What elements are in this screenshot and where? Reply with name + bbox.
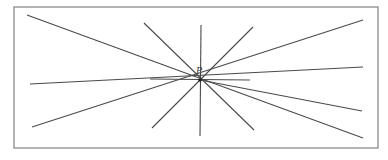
line-4 (144, 23, 254, 130)
diagram-frame (14, 7, 378, 148)
line-8 (200, 80, 362, 111)
line-1 (27, 15, 363, 138)
center-point-P (198, 78, 202, 82)
line-group (27, 15, 363, 138)
point-label: P (195, 66, 203, 76)
pencil-of-lines-diagram: P (0, 0, 388, 160)
